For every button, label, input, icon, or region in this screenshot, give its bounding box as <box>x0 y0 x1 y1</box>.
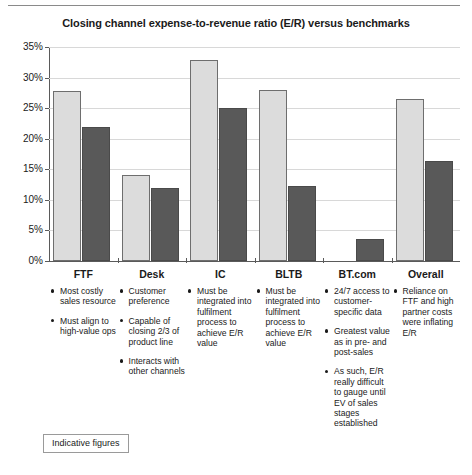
annotation-text: Greatest value as in pre- and post-sales <box>334 326 390 357</box>
bar-group-desk[interactable] <box>118 47 187 261</box>
annotation-bullet: Must be integrated into fulfilment proce… <box>188 286 256 348</box>
bar-overall-series-1[interactable] <box>396 99 424 261</box>
annotation-bullet: Customer preference <box>120 286 188 307</box>
annotation-text: Most costly sales resource <box>60 286 116 306</box>
x-axis-tick-mark <box>118 258 119 263</box>
bullet-icon <box>51 289 54 292</box>
annotation-column-bt-com: 24/7 access to customer-specific dataGre… <box>325 286 393 438</box>
bullet-icon <box>325 289 328 292</box>
annotation-column-bltb: Must be integrated into fulfilment proce… <box>257 286 325 357</box>
x-axis-label-ftf: FTF <box>48 268 118 280</box>
y-axis-tick-label: 10% <box>3 194 43 205</box>
indicative-figures-note: Indicative figures <box>43 434 129 453</box>
x-axis-tick-mark <box>186 258 187 263</box>
y-axis-tick-label: 30% <box>3 72 43 83</box>
annotation-column-overall: Reliance on FTF and high partner costs w… <box>394 286 462 347</box>
y-axis-tick-label: 35% <box>3 41 43 52</box>
plot-area: 35%30%25%20%15%10%5%0% <box>49 47 460 262</box>
bullet-icon <box>120 319 123 322</box>
bullet-icon <box>120 289 123 292</box>
top-rule <box>8 5 460 6</box>
x-axis-label-overall: Overall <box>391 268 461 280</box>
y-axis-tick-label: 20% <box>3 133 43 144</box>
bar-group-ic[interactable] <box>186 47 255 261</box>
annotation-text: Customer preference <box>129 286 170 306</box>
bar-ftf-series-2[interactable] <box>82 127 110 262</box>
y-axis-tick-label: 0% <box>3 255 43 266</box>
y-axis-tick-mark <box>45 261 49 262</box>
x-axis-label-bt-com: BT.com <box>322 268 392 280</box>
bar-group-bt-com[interactable] <box>323 47 392 261</box>
annotation-text: As such, E/R really difficult to gauge u… <box>334 366 386 428</box>
bar-group-bltb[interactable] <box>255 47 324 261</box>
annotation-bullet: Most costly sales resource <box>51 286 119 307</box>
x-axis-tick-mark <box>255 258 256 263</box>
bar-ic-series-1[interactable] <box>190 60 218 261</box>
annotation-bullet: As such, E/R really difficult to gauge u… <box>325 366 393 428</box>
bullet-icon <box>51 319 54 322</box>
bullet-icon <box>120 359 123 362</box>
bullet-icon <box>325 329 328 332</box>
x-axis-label-desk: Desk <box>117 268 187 280</box>
annotation-bullet: Interacts with other channels <box>120 356 188 377</box>
bullet-icon <box>325 370 328 373</box>
bar-ic-series-2[interactable] <box>219 108 247 261</box>
bullet-icon <box>188 289 191 292</box>
annotation-bullet: Must align to high-value ops <box>51 316 119 337</box>
annotation-column-desk: Customer preferenceCapable of closing 2/… <box>120 286 188 386</box>
chart-title: Closing channel expense-to-revenue ratio… <box>0 17 472 29</box>
bar-desk-series-1[interactable] <box>122 175 150 261</box>
x-axis-label-bltb: BLTB <box>254 268 324 280</box>
bar-group-ftf[interactable] <box>49 47 118 261</box>
annotation-text: Must be integrated into fulfilment proce… <box>266 286 320 348</box>
y-axis-tick-label: 25% <box>3 102 43 113</box>
annotation-text: Reliance on FTF and high partner costs w… <box>403 286 454 338</box>
annotation-text: Capable of closing 2/3 of product line <box>129 316 180 347</box>
annotation-bullet: Greatest value as in pre- and post-sales <box>325 326 393 357</box>
bar-bt-com-series-2[interactable] <box>356 239 384 261</box>
bullet-icon <box>394 289 397 292</box>
annotation-text: Interacts with other channels <box>129 356 185 376</box>
bar-overall-series-2[interactable] <box>425 161 453 261</box>
annotation-text: 24/7 access to customer-specific data <box>334 286 389 317</box>
x-axis-tick-mark <box>323 258 324 263</box>
bar-ftf-series-1[interactable] <box>53 91 81 261</box>
annotation-column-ftf: Most costly sales resourceMust align to … <box>51 286 119 346</box>
x-axis-label-ic: IC <box>185 268 255 280</box>
bullet-icon <box>257 289 260 292</box>
annotation-bullet: Reliance on FTF and high partner costs w… <box>394 286 462 338</box>
bar-group-overall[interactable] <box>392 47 461 261</box>
bar-bltb-series-1[interactable] <box>259 90 287 261</box>
y-axis-tick-label: 15% <box>3 163 43 174</box>
annotation-column-ic: Must be integrated into fulfilment proce… <box>188 286 256 357</box>
annotation-bullet: 24/7 access to customer-specific data <box>325 286 393 317</box>
y-axis-tick-label: 5% <box>3 224 43 235</box>
annotation-text: Must align to high-value ops <box>60 316 116 336</box>
annotation-bullet: Capable of closing 2/3 of product line <box>120 316 188 347</box>
annotation-bullet: Must be integrated into fulfilment proce… <box>257 286 325 348</box>
x-axis-tick-mark <box>392 258 393 263</box>
annotation-text: Must be integrated into fulfilment proce… <box>197 286 251 348</box>
bar-bltb-series-2[interactable] <box>288 186 316 261</box>
bar-desk-series-2[interactable] <box>151 188 179 261</box>
